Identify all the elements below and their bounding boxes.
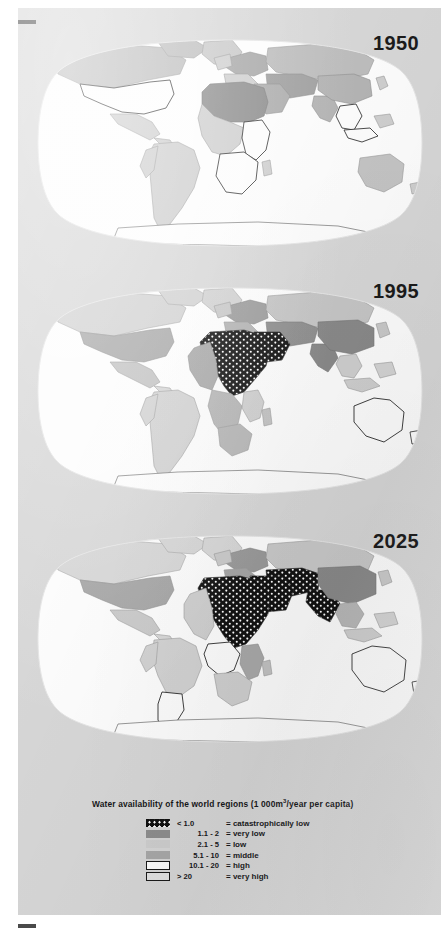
legend-range-low: 2.1 - 5 (170, 840, 226, 849)
legend-row-very-low: 1.1 - 2 = very low (146, 829, 309, 840)
world-map-1995 (18, 266, 441, 516)
legend-desc-catastrophically-low: = catastrophically low (226, 819, 309, 828)
map-legend: Water availability of the world regions … (18, 780, 441, 890)
scanned-page: 1950 (18, 8, 441, 915)
legend-range-very-low: 1.1 - 2 (170, 829, 226, 838)
legend-swatch-very-low (146, 830, 170, 838)
legend-row-catastrophically-low: < 1.0 = catastrophically low (146, 818, 309, 829)
legend-row-middle: 5.1 - 10 = middle (146, 850, 309, 861)
map-panel-2025: 2025 (18, 514, 441, 764)
legend-title-suffix: /year per capita) (287, 799, 354, 809)
legend-rows: < 1.0 = catastrophically low 1.1 - 2 = v… (146, 818, 309, 882)
legend-swatch-middle (146, 851, 170, 859)
legend-desc-very-high: = very high (226, 872, 268, 881)
legend-swatch-catastrophically-low (146, 819, 170, 827)
map-panel-1995: 1995 (18, 266, 441, 516)
film-edge-mark-bottom (18, 924, 36, 928)
legend-range-high: 10.1 - 20 (170, 861, 226, 870)
legend-desc-very-low: = very low (226, 829, 265, 838)
legend-title: Water availability of the world regions … (92, 798, 353, 809)
legend-desc-low: = low (226, 840, 246, 849)
world-map-2025 (18, 514, 441, 764)
legend-range-catastrophically-low: < 1.0 (170, 819, 226, 828)
legend-range-middle: 5.1 - 10 (170, 851, 226, 860)
legend-swatch-low (146, 840, 170, 848)
legend-swatch-very-high (146, 872, 170, 881)
legend-swatch-high (146, 861, 170, 870)
legend-title-prefix: Water availability of the world regions … (92, 799, 283, 809)
legend-row-high: 10.1 - 20 = high (146, 860, 309, 871)
map-panel-1950: 1950 (18, 18, 441, 268)
legend-row-very-high: > 20 = very high (146, 871, 309, 882)
world-map-1950 (18, 18, 441, 268)
legend-desc-high: = high (226, 861, 250, 870)
legend-desc-middle: = middle (226, 851, 259, 860)
legend-range-very-high: > 20 (170, 872, 226, 881)
legend-row-low: 2.1 - 5 = low (146, 839, 309, 850)
